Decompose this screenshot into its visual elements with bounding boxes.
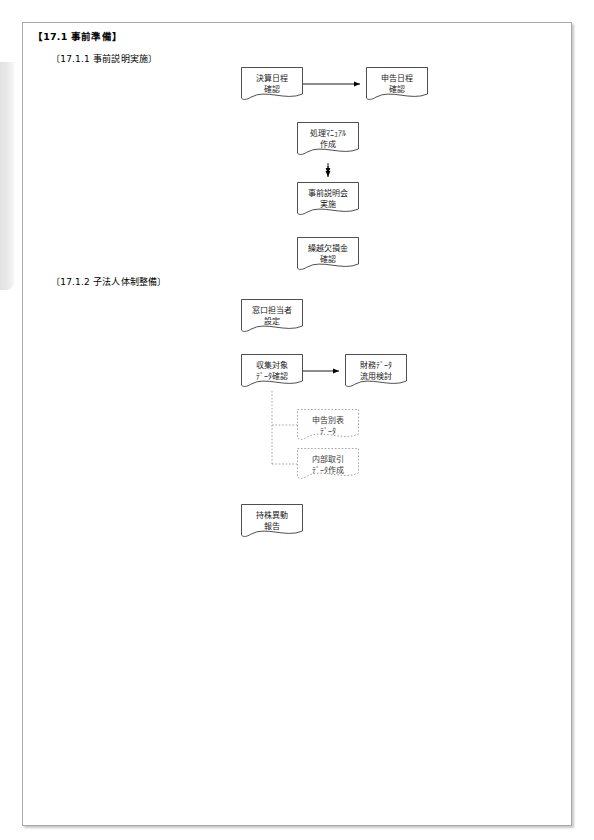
flow-node-label-line1: 持株異動	[256, 510, 288, 521]
flow-node-n7: 収集対象ﾃﾞｰﾀ確認	[241, 354, 303, 388]
flow-node-label: 処理ﾏﾆｭｱﾙ作成	[297, 122, 359, 156]
flow-node-label-line1: 申告日程	[381, 73, 413, 84]
flow-node-n5: 繰越欠損金確認	[297, 237, 359, 271]
flow-node-label-line1: 申告別表	[312, 415, 344, 426]
flow-node-label: 窓口担当者設定	[241, 299, 303, 333]
flow-node-label-line2: 設定	[264, 316, 280, 327]
flow-node-label-line1: 事前説明会	[308, 188, 348, 199]
flow-node-label-line2: 流用検討	[360, 371, 392, 382]
flow-node-label-line1: 収集対象	[256, 360, 288, 371]
flow-node-n10: 内部取引ﾃﾞｰﾀ作成	[297, 448, 359, 480]
flow-node-label: 持株異動報告	[241, 504, 303, 538]
flow-node-label-line2: 実施	[320, 199, 336, 210]
flow-node-n3: 処理ﾏﾆｭｱﾙ作成	[297, 122, 359, 156]
flow-node-label-line2: 作成	[320, 139, 336, 150]
flow-node-label: 申告別表ﾃﾞｰﾀ	[297, 409, 359, 441]
connector-shushu-to-subitems	[272, 391, 297, 465]
flow-node-label: 決算日程確認	[241, 67, 303, 101]
flow-node-label-line2: 確認	[264, 84, 280, 95]
flow-node-label: 申告日程確認	[366, 67, 428, 101]
left-edge-tab	[0, 62, 15, 290]
flow-node-label-line2: ﾃﾞｰﾀ作成	[312, 465, 344, 476]
flow-node-label: 事前説明会実施	[297, 182, 359, 216]
flow-node-label-line1: 内部取引	[312, 454, 344, 465]
flow-node-n9: 申告別表ﾃﾞｰﾀ	[297, 409, 359, 441]
flow-node-label: 繰越欠損金確認	[297, 237, 359, 271]
flow-node-n11: 持株異動報告	[241, 504, 303, 538]
flow-node-label-line2: 確認	[320, 254, 336, 265]
flow-node-label-line2: 確認	[389, 84, 405, 95]
flow-node-label-line1: 繰越欠損金	[308, 243, 348, 254]
flow-node-label-line2: ﾃﾞｰﾀ確認	[256, 371, 288, 382]
flow-node-n8: 財務ﾃﾞｰﾀ流用検討	[345, 354, 407, 388]
flow-node-label-line2: ﾃﾞｰﾀ	[320, 426, 336, 437]
flow-node-n2: 申告日程確認	[366, 67, 428, 101]
flow-node-label-line1: 処理ﾏﾆｭｱﾙ	[310, 128, 346, 139]
flow-node-n6: 窓口担当者設定	[241, 299, 303, 333]
flow-node-label: 収集対象ﾃﾞｰﾀ確認	[241, 354, 303, 388]
flow-node-label: 内部取引ﾃﾞｰﾀ作成	[297, 448, 359, 480]
flow-node-label-line1: 決算日程	[256, 73, 288, 84]
flow-node-n1: 決算日程確認	[241, 67, 303, 101]
flow-node-label-line2: 報告	[264, 521, 280, 532]
flow-node-label: 財務ﾃﾞｰﾀ流用検討	[345, 354, 407, 388]
flow-node-label-line1: 財務ﾃﾞｰﾀ	[360, 360, 392, 371]
flow-node-label-line1: 窓口担当者	[252, 305, 292, 316]
document-page: 【17.1 事前準備】 〔17.1.1 事前説明実施〕 〔17.1.2 子法人体…	[22, 22, 572, 826]
flow-node-n4: 事前説明会実施	[297, 182, 359, 216]
